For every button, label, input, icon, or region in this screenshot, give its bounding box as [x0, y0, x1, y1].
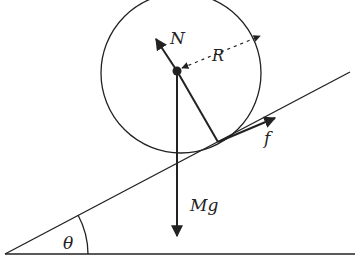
angle-label: θ — [63, 233, 73, 253]
normal-force-label: N — [169, 28, 186, 48]
radius-label: R — [211, 46, 224, 65]
angle-arc — [78, 215, 88, 254]
free-body-diagram: N R f Mg θ — [0, 0, 355, 267]
friction-label: f — [262, 128, 273, 148]
radius-to-contact-line — [177, 71, 218, 142]
weight-label: Mg — [189, 195, 218, 215]
